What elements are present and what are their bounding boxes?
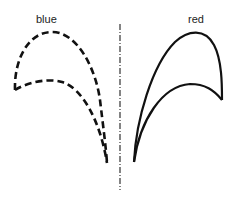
diagram-canvas: blue red <box>0 0 236 197</box>
label-red: red <box>188 13 204 25</box>
blue-outer-curve <box>15 32 107 163</box>
blue-shape <box>15 32 107 163</box>
red-shape <box>134 33 222 162</box>
red-outer-curve <box>134 33 222 162</box>
blue-inner-curve <box>15 80 107 163</box>
label-blue: blue <box>36 13 57 25</box>
